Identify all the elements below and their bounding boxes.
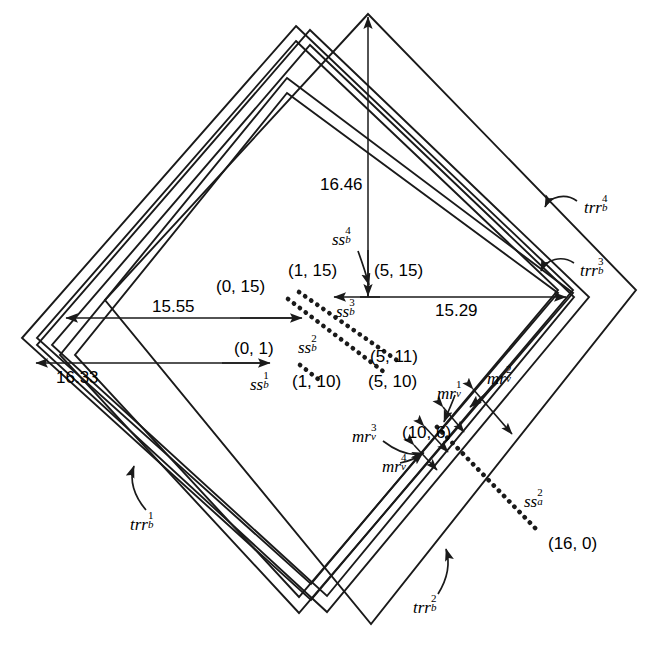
coordinate-label-16-0: (16, 0)	[548, 535, 597, 552]
symbol-ss-b-2: ss2b	[298, 336, 322, 356]
coordinate-label-5-15: (5, 15)	[374, 262, 423, 279]
diagram-vector-layer	[0, 0, 645, 665]
symbol-ss-b-1: ss1b	[250, 373, 274, 393]
symbol-base: ss	[332, 230, 345, 249]
coordinate-label-10-6: (10, 6)	[402, 424, 451, 441]
symbol-ss-a-2: ss2a	[524, 490, 548, 510]
symbol-mr-v-3: mr3v	[352, 425, 381, 445]
symbol-subscript: b	[431, 602, 437, 613]
leader-trr-b-1	[132, 466, 146, 510]
symbol-subscript: v	[506, 373, 511, 384]
diagram-canvas: 16.46 15.55 15.29 16.33 (0, 15) (1, 15) …	[0, 0, 645, 665]
symbol-subscript: b	[311, 342, 317, 353]
symbol-subscript: v	[401, 461, 406, 472]
symbol-base: mr	[437, 384, 456, 403]
symbol-subscript: a	[537, 496, 543, 507]
dimension-label-1646: 16.46	[320, 176, 363, 193]
leader-trr-b-4	[545, 196, 577, 207]
coordinate-label-5-11: (5, 11)	[370, 348, 418, 365]
symbol-base: ss	[298, 338, 311, 357]
symbol-subscript: v	[456, 388, 461, 399]
diamond-trr-b-2	[37, 30, 589, 612]
symbol-base: trr	[584, 198, 602, 217]
symbol-base: mr	[487, 369, 506, 388]
coordinate-label-1-15: (1, 15)	[288, 262, 337, 279]
symbol-base: mr	[352, 427, 371, 446]
coordinate-label-5-10: (5, 10)	[368, 373, 417, 390]
symbol-base: ss	[524, 492, 537, 511]
symbol-trr-b-1: trr1b	[130, 513, 159, 533]
symbol-subscript: b	[349, 306, 355, 317]
symbol-trr-b-4: trr4b	[584, 196, 613, 216]
symbol-trr-b-2: trr2b	[413, 596, 442, 616]
symbol-subscript: b	[602, 202, 608, 213]
dimension-label-1529: 15.29	[435, 302, 478, 319]
symbol-mr-v-1: mr1v	[437, 382, 466, 402]
dimension-label-1555: 15.55	[152, 298, 195, 315]
symbol-ss-b-4: ss4b	[332, 228, 356, 248]
symbol-trr-b-3: trr3b	[580, 259, 609, 279]
symbol-ss-b-3: ss3b	[336, 300, 360, 320]
symbol-mr-v-4: mr4v	[382, 455, 411, 475]
coordinate-label-0-15: (0, 15)	[216, 278, 265, 295]
coordinate-label-0-1: (0, 1)	[234, 340, 274, 357]
dotted-segment-ss-a-2	[437, 427, 538, 531]
symbol-subscript: b	[148, 519, 154, 530]
diamond-trr-b-1	[22, 26, 573, 600]
symbol-base: trr	[580, 261, 598, 280]
symbol-subscript: b	[345, 234, 351, 245]
symbol-subscript: v	[371, 431, 376, 442]
dimension-label-1633: 16.33	[56, 369, 99, 386]
symbol-base: ss	[250, 375, 263, 394]
leader-trr-b-2	[438, 549, 448, 594]
symbol-subscript: b	[598, 265, 604, 276]
symbol-base: mr	[382, 457, 401, 476]
symbol-subscript: b	[263, 379, 269, 390]
symbol-base: ss	[336, 302, 349, 321]
symbol-base: trr	[413, 598, 431, 617]
symbol-base: trr	[130, 515, 148, 534]
symbol-mr-v-2: mr2v	[487, 367, 516, 387]
coordinate-label-1-10: (1, 10)	[292, 373, 341, 390]
